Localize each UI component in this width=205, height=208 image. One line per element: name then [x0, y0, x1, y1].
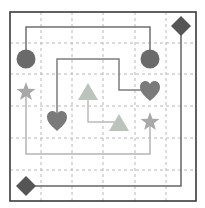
- heart-icon: [47, 111, 67, 131]
- diamond-icon: [16, 176, 36, 196]
- triangle-icon: [78, 83, 98, 100]
- circle-icon: [141, 50, 160, 69]
- circle-icon: [17, 50, 36, 69]
- grid-lines: [10, 12, 196, 201]
- diamond-icon: [171, 16, 191, 36]
- heart-icon: [140, 81, 160, 101]
- shape-connection-puzzle: Connect matching shapes: [0, 0, 205, 208]
